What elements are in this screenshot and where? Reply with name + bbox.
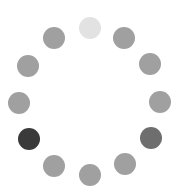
spinner-dot-icon <box>8 92 30 114</box>
spinner-dot-icon <box>140 127 162 149</box>
spinner-dot-icon <box>149 91 171 113</box>
spinner-dot-icon <box>139 53 161 75</box>
spinner-dot-icon <box>114 153 136 175</box>
loading-spinner <box>0 0 181 192</box>
spinner-dot-icon <box>17 55 39 77</box>
spinner-dot-icon <box>43 27 65 49</box>
spinner-dot-icon <box>113 27 135 49</box>
spinner-dot-icon <box>43 155 65 177</box>
spinner-dot-icon <box>79 17 101 39</box>
spinner-dot-icon <box>79 164 101 186</box>
spinner-dot-icon <box>18 128 40 150</box>
